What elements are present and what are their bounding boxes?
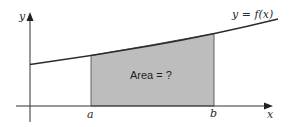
upper-bound-label-b: b <box>210 107 217 120</box>
diagram-canvas: y x a b y = f(x) Area = ? <box>0 0 290 127</box>
y-axis-arrow-icon <box>27 12 34 21</box>
lower-bound-label-a: a <box>87 108 94 121</box>
x-axis-label: x <box>267 108 274 121</box>
area-under-curve-diagram: y x a b y = f(x) Area = ? <box>0 0 290 127</box>
y-axis-label: y <box>18 10 26 23</box>
area-label: Area = ? <box>130 69 172 81</box>
curve-label: y = f(x) <box>231 8 273 21</box>
